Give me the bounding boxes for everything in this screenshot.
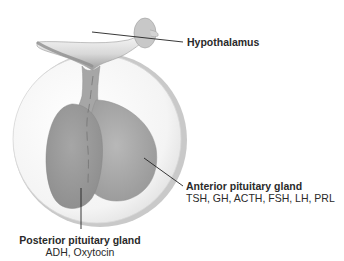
hypothalamus-shape bbox=[37, 18, 158, 70]
label-hypothalamus: Hypothalamus bbox=[187, 36, 259, 48]
posterior-lobe bbox=[46, 104, 103, 209]
anterior-title: Anterior pituitary gland bbox=[186, 180, 335, 192]
posterior-title: Posterior pituitary gland bbox=[0, 234, 160, 246]
pituitary-diagram bbox=[0, 0, 344, 261]
anterior-hormones: TSH, GH, ACTH, FSH, LH, PRL bbox=[186, 192, 335, 204]
label-anterior-pituitary: Anterior pituitary gland TSH, GH, ACTH, … bbox=[186, 180, 335, 204]
hypothalamus-title: Hypothalamus bbox=[187, 36, 259, 48]
label-posterior-pituitary: Posterior pituitary gland ADH, Oxytocin bbox=[0, 234, 160, 258]
posterior-hormones: ADH, Oxytocin bbox=[0, 246, 160, 258]
